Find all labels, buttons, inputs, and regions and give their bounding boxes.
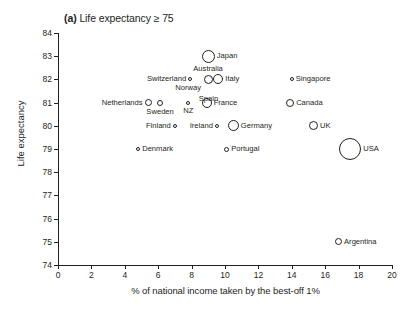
data-point-marker xyxy=(339,138,361,160)
y-tick-label: 76 xyxy=(32,215,52,224)
panel-tag: (a) xyxy=(64,12,77,24)
data-point-label: France xyxy=(214,99,238,107)
data-point-marker xyxy=(204,75,213,84)
data-point-marker xyxy=(188,77,192,81)
y-tick xyxy=(54,219,58,220)
y-tick-label: 78 xyxy=(32,168,52,177)
y-tick-label: 81 xyxy=(32,99,52,108)
x-tick-label: 14 xyxy=(282,271,302,280)
data-point-label: Sweden xyxy=(146,108,173,116)
x-tick-label: 4 xyxy=(115,271,135,280)
data-point-label: Ireland xyxy=(190,122,213,130)
data-point-label: Italy xyxy=(225,75,239,83)
x-tick-label: 12 xyxy=(248,271,268,280)
data-point-label: Canada xyxy=(296,99,323,107)
x-tick-label: 10 xyxy=(215,271,235,280)
x-tick-label: 8 xyxy=(182,271,202,280)
data-point-label: UK xyxy=(320,122,331,130)
data-point-marker xyxy=(335,238,342,245)
data-point-marker xyxy=(173,124,177,128)
y-tick-label: 75 xyxy=(32,238,52,247)
data-point-marker xyxy=(136,147,140,151)
x-tick-label: 20 xyxy=(382,271,402,280)
y-tick-label: 82 xyxy=(32,75,52,84)
panel-title-text: Life expectancy ≥ 75 xyxy=(79,12,173,24)
x-tick xyxy=(292,265,293,269)
x-tick xyxy=(125,265,126,269)
y-tick xyxy=(54,56,58,57)
data-point-label: Germany xyxy=(241,122,272,130)
scatter-chart-figure: (a) Life expectancy ≥ 75 747576777879808… xyxy=(0,0,415,311)
x-tick xyxy=(392,265,393,269)
x-tick-label: 18 xyxy=(349,271,369,280)
x-tick xyxy=(325,265,326,269)
data-point-marker xyxy=(186,101,190,105)
x-tick-label: 2 xyxy=(81,271,101,280)
y-tick xyxy=(54,172,58,173)
data-point-marker xyxy=(145,99,152,106)
x-tick xyxy=(258,265,259,269)
y-tick xyxy=(54,126,58,127)
x-tick-label: 16 xyxy=(315,271,335,280)
data-point-marker xyxy=(157,100,163,106)
x-tick xyxy=(359,265,360,269)
x-tick xyxy=(91,265,92,269)
y-tick-label: 84 xyxy=(32,29,52,38)
x-tick xyxy=(192,265,193,269)
x-tick xyxy=(58,265,59,269)
y-tick xyxy=(54,195,58,196)
data-point-marker xyxy=(213,74,223,84)
data-point-label: Argentina xyxy=(344,238,377,246)
y-tick xyxy=(54,79,58,80)
data-point-label: Singapore xyxy=(296,75,331,83)
data-point-marker xyxy=(224,147,229,152)
data-point-marker xyxy=(202,98,212,108)
data-point-label: USA xyxy=(363,145,379,153)
data-point-marker xyxy=(309,121,318,130)
page-title: (a) Life expectancy ≥ 75 xyxy=(64,12,174,24)
y-tick-label: 74 xyxy=(32,261,52,270)
x-tick-label: 0 xyxy=(48,271,68,280)
x-axis-label: % of national income taken by the best-o… xyxy=(58,285,393,296)
y-tick-label: 80 xyxy=(32,122,52,131)
y-tick xyxy=(54,242,58,243)
data-point-label: Finland xyxy=(146,122,171,130)
y-tick-label: 83 xyxy=(32,52,52,61)
data-point-marker xyxy=(202,50,215,63)
data-point-marker xyxy=(286,99,294,107)
data-point-label: Norway xyxy=(175,84,201,92)
y-tick-label: 77 xyxy=(32,191,52,200)
y-axis-label: Life expectancy xyxy=(15,74,26,194)
x-tick xyxy=(225,265,226,269)
data-point-label: Netherlands xyxy=(102,99,143,107)
data-point-marker xyxy=(290,77,294,81)
y-axis-line xyxy=(58,33,59,266)
data-point-marker xyxy=(228,120,239,131)
data-point-label: NZ xyxy=(183,107,193,115)
y-tick-label: 79 xyxy=(32,145,52,154)
y-tick xyxy=(54,33,58,34)
y-tick xyxy=(54,149,58,150)
y-tick xyxy=(54,103,58,104)
data-point-label: Portugal xyxy=(231,145,259,153)
data-point-label: Japan xyxy=(217,52,238,60)
data-point-marker xyxy=(215,124,219,128)
x-tick xyxy=(158,265,159,269)
x-tick-label: 6 xyxy=(148,271,168,280)
data-point-label: Australia xyxy=(193,65,223,73)
data-point-label: Switzerland xyxy=(147,75,186,83)
data-point-label: Denmark xyxy=(142,145,173,153)
